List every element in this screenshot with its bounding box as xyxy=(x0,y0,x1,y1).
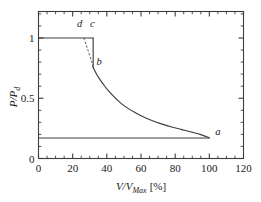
svg-text:V/VMax[%]: V/VMax[%] xyxy=(116,180,166,195)
x-axis-title-unit: [%] xyxy=(150,180,167,192)
series-hyperbolic-decay-b-a xyxy=(93,68,209,138)
point-label-d: d xyxy=(77,18,83,29)
plot-frame xyxy=(39,12,244,159)
figure-container: 02040608010012000.51 abcd P/Pd V/VMax[%] xyxy=(0,0,261,202)
x-tick-label: 0 xyxy=(36,162,42,174)
y-tick-label: 0 xyxy=(29,153,35,165)
tick-labels-group: 02040608010012000.51 xyxy=(21,32,253,173)
data-series-group xyxy=(39,38,210,138)
point-label-c: c xyxy=(90,18,95,29)
svg-text:P/Pd: P/Pd xyxy=(7,86,22,109)
x-axis-title: V/VMax[%] xyxy=(116,180,166,195)
figure-caption xyxy=(0,194,261,202)
y-axis-title-subscript: d xyxy=(13,86,22,91)
x-tick-label: 40 xyxy=(101,162,113,174)
y-axis-title: P/Pd xyxy=(7,86,22,109)
x-tick-label: 80 xyxy=(170,162,182,174)
x-tick-label: 60 xyxy=(136,162,148,174)
y-tick-label: 1 xyxy=(29,32,35,44)
point-label-b: b xyxy=(97,56,102,67)
point-label-a: a xyxy=(215,126,220,137)
x-tick-label: 120 xyxy=(235,162,252,174)
x-tick-label: 20 xyxy=(67,162,79,174)
y-tick-label: 0.5 xyxy=(21,92,35,104)
series-transition-d-b xyxy=(84,38,93,68)
axes-group xyxy=(39,12,244,159)
chart-canvas: 02040608010012000.51 abcd P/Pd V/VMax[%] xyxy=(0,0,261,202)
x-tick-label: 100 xyxy=(201,162,218,174)
ticks-group xyxy=(39,12,244,159)
